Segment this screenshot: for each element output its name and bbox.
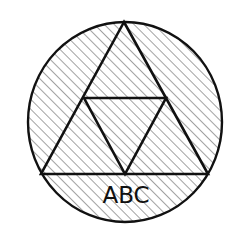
diagram-canvas: ABC — [0, 0, 238, 231]
abc-label: ABC — [102, 182, 149, 208]
